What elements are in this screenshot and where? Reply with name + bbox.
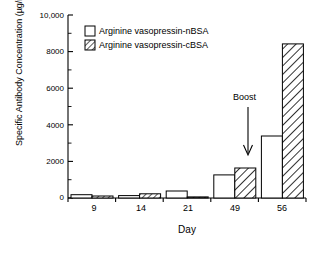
- bar-group-day-14: [119, 194, 161, 198]
- bar-group-day-21: [166, 191, 208, 198]
- bar-day-21-cbsa: [187, 197, 208, 198]
- x-ticks: [68, 198, 306, 202]
- bar-day-9-nbsa: [71, 195, 92, 198]
- bar-day-49-cbsa: [235, 168, 256, 198]
- chart-figure: Specific Antibody Concentration (µg/ml) …: [0, 0, 324, 253]
- legend-swatch-open-square: [85, 26, 95, 36]
- bar-group-day-49: [214, 168, 256, 198]
- bar-group-day-9: [71, 195, 113, 198]
- bar-day-49-nbsa: [214, 175, 235, 198]
- plot-area: [0, 0, 324, 253]
- bar-group-day-56: [261, 44, 303, 198]
- boost-arrow-icon: [244, 107, 253, 155]
- bar-day-14-nbsa: [119, 196, 140, 198]
- legend-swatch-hatched-square: [85, 40, 95, 50]
- bar-day-56-nbsa: [261, 136, 282, 198]
- bar-day-9-cbsa: [92, 196, 113, 198]
- bar-day-21-nbsa: [166, 191, 187, 198]
- bar-day-56-cbsa: [282, 44, 303, 198]
- bar-day-14-cbsa: [140, 194, 161, 198]
